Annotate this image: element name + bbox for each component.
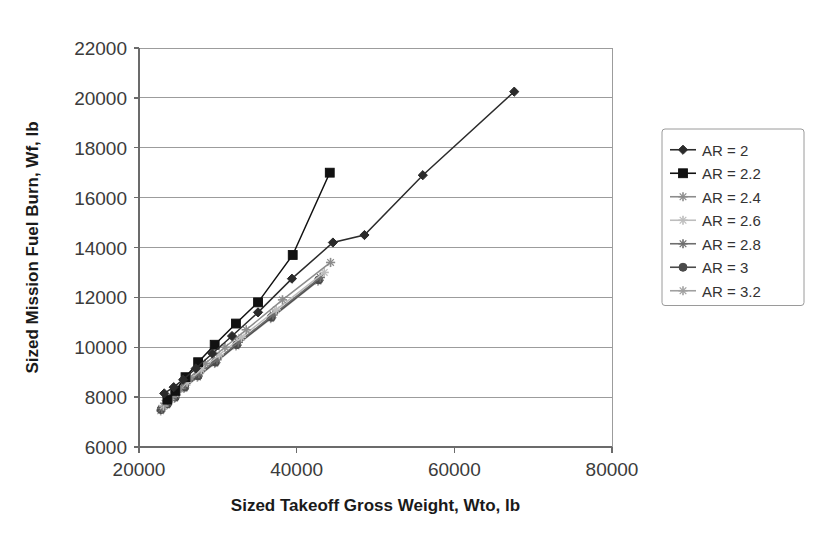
data-point-cross bbox=[272, 305, 281, 314]
x-tick-label: 80000 bbox=[586, 459, 639, 480]
legend-label: AR = 2.2 bbox=[702, 165, 761, 182]
y-tick-label: 10000 bbox=[74, 337, 127, 358]
y-tick-label: 18000 bbox=[74, 138, 127, 159]
data-point-cross bbox=[678, 216, 687, 225]
x-tick-label: 20000 bbox=[113, 459, 166, 480]
data-point-cross bbox=[678, 239, 687, 248]
data-point-circle bbox=[679, 263, 687, 271]
data-point-cross bbox=[220, 343, 229, 352]
data-point-cross bbox=[278, 295, 287, 304]
data-point-cross bbox=[678, 192, 687, 201]
data-point-square bbox=[679, 169, 688, 178]
data-point-square bbox=[254, 298, 263, 307]
legend-label: AR = 3.2 bbox=[702, 283, 761, 300]
data-point-square bbox=[232, 319, 241, 328]
y-tick-label: 20000 bbox=[74, 88, 127, 109]
legend-label: AR = 2.4 bbox=[702, 189, 761, 206]
data-point-cross bbox=[678, 286, 687, 295]
x-tick-label: 60000 bbox=[428, 459, 481, 480]
legend-label: AR = 2.6 bbox=[702, 212, 761, 229]
chart-figure: 20000400006000080000 6000800010000120001… bbox=[0, 0, 827, 552]
legend-label: AR = 3 bbox=[702, 259, 748, 276]
legend-label: AR = 2 bbox=[702, 142, 748, 159]
legend: AR = 2AR = 2.2AR = 2.4AR = 2.6AR = 2.8AR… bbox=[662, 129, 804, 306]
y-axis-title: Sized Mission Fuel Burn, Wf, lb bbox=[23, 121, 42, 373]
y-tick-label: 22000 bbox=[74, 38, 127, 59]
x-tick-label: 40000 bbox=[270, 459, 323, 480]
x-axis-title: Sized Takeoff Gross Weight, Wto, lb bbox=[231, 496, 520, 515]
data-point-square bbox=[325, 168, 334, 177]
legend-label: AR = 2.8 bbox=[702, 236, 761, 253]
y-tick-label: 16000 bbox=[74, 188, 127, 209]
y-tick-label: 6000 bbox=[85, 437, 127, 458]
y-tick-label: 14000 bbox=[74, 238, 127, 259]
data-point-square bbox=[288, 251, 297, 260]
y-tick-label: 12000 bbox=[74, 287, 127, 308]
scatter-line-chart: 20000400006000080000 6000800010000120001… bbox=[0, 0, 827, 552]
data-point-cross bbox=[326, 258, 335, 267]
y-tick-label: 8000 bbox=[85, 387, 127, 408]
